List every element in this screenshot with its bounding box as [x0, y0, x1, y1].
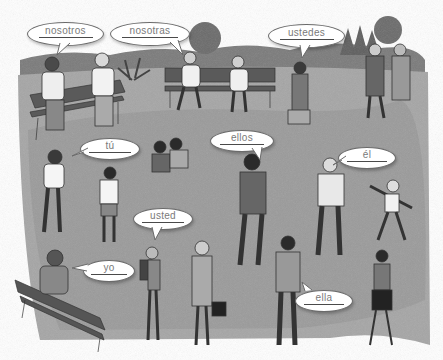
bubble-ustedes: ustedes [268, 24, 345, 48]
bubble-nosotras: nosotras [110, 22, 190, 46]
answer-blank-nosotros: nosotros [39, 25, 93, 38]
bubble-usted: usted [133, 208, 193, 230]
bubble-ellos: ellos [210, 130, 274, 152]
answer-blank-usted: usted [142, 210, 184, 223]
answer-blank-ella: ella [304, 292, 344, 305]
bubble-el: él [338, 147, 396, 169]
bubble-ella: ella [295, 290, 353, 312]
answer-blank-yo: yo [91, 262, 127, 275]
answer-blank-nosotras: nosotras [122, 25, 178, 38]
park-scene-illustration [0, 0, 443, 360]
bubble-yo: yo [83, 260, 135, 282]
answer-blank-ustedes: ustedes [280, 27, 334, 40]
bubble-tu: tú [80, 138, 140, 160]
answer-blank-el: él [347, 149, 387, 162]
bubble-nosotros: nosotros [27, 22, 104, 46]
answer-blank-tu: tú [89, 140, 131, 153]
answer-blank-ellos: ellos [220, 132, 265, 145]
